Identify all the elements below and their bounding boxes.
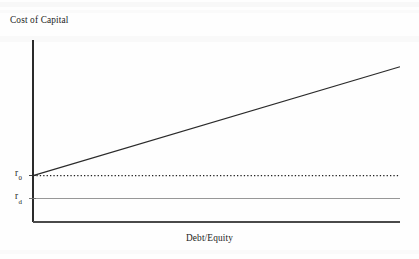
y-tick-label-r0: r0 — [15, 168, 22, 180]
cost-of-capital-figure: Cost of Capital Debt/Equity r0 rd — [0, 0, 419, 259]
y-axis-label: Cost of Capital — [10, 15, 69, 25]
tick-r0-subscript: 0 — [18, 174, 21, 181]
x-axis-label: Debt/Equity — [0, 233, 419, 243]
chart-plot-area — [0, 0, 419, 259]
tick-rd-subscript: d — [18, 198, 21, 205]
y-tick-label-rd: rd — [15, 191, 22, 203]
series-line-cost-of-equity — [33, 67, 400, 176]
